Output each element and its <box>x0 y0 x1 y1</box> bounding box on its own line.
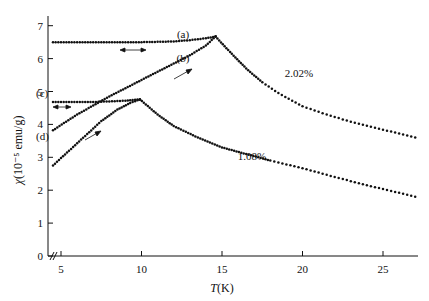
data-point <box>294 101 297 104</box>
data-point <box>205 44 208 47</box>
data-point <box>202 37 205 40</box>
data-point <box>194 38 197 41</box>
x-tick-label: 15 <box>217 263 229 275</box>
data-point <box>64 153 67 156</box>
data-point <box>180 128 183 131</box>
data-point <box>116 100 119 103</box>
data-point <box>398 132 401 135</box>
data-point <box>253 74 256 77</box>
data-point <box>232 54 235 57</box>
data-point <box>65 101 68 104</box>
data-point <box>289 164 292 167</box>
data-point <box>52 129 55 132</box>
data-point <box>89 101 92 104</box>
data-point <box>192 134 195 137</box>
data-point <box>85 108 88 111</box>
data-point <box>210 39 213 42</box>
data-point <box>317 171 320 174</box>
data-point <box>124 87 127 90</box>
data-point <box>333 176 336 179</box>
data-point <box>366 184 369 187</box>
data-point <box>202 46 205 49</box>
data-point <box>60 41 63 44</box>
data-point <box>87 101 90 104</box>
data-point <box>92 127 95 130</box>
y-tick-label: 0 <box>38 250 44 262</box>
series-0 <box>52 35 217 43</box>
data-point <box>151 41 154 44</box>
data-point <box>201 138 204 141</box>
data-point <box>62 101 64 104</box>
data-point <box>95 41 98 44</box>
y-tick-label: 2 <box>38 184 44 196</box>
data-point <box>163 67 166 70</box>
warming-arrow-icon <box>174 69 192 79</box>
data-point <box>166 66 169 69</box>
data-point <box>267 159 270 162</box>
data-point <box>74 115 77 118</box>
data-point <box>112 111 115 114</box>
data-point <box>72 146 75 149</box>
data-point <box>214 35 217 38</box>
data-point <box>87 41 90 44</box>
data-point <box>247 69 250 72</box>
data-point <box>119 41 122 44</box>
data-point <box>309 108 312 111</box>
data-point <box>60 123 63 126</box>
data-point <box>92 101 95 104</box>
data-point <box>52 101 55 104</box>
data-point <box>216 144 219 147</box>
data-point <box>133 82 136 85</box>
data-point <box>143 78 146 81</box>
data-point <box>225 47 228 50</box>
data-point <box>119 100 122 103</box>
data-point <box>111 100 114 103</box>
data-point <box>102 118 105 121</box>
data-point <box>382 128 385 131</box>
data-point <box>78 140 81 143</box>
data-point <box>97 101 100 104</box>
data-point <box>81 41 84 44</box>
data-point <box>92 41 95 44</box>
y-tick-label: 7 <box>38 20 44 32</box>
data-point <box>115 92 118 95</box>
data-point <box>309 169 312 172</box>
data-point <box>342 178 345 181</box>
data-point <box>62 41 64 44</box>
y-tick-label: 1 <box>38 217 44 229</box>
data-point <box>216 37 219 40</box>
x-tick-label: 25 <box>378 263 390 275</box>
data-point <box>159 69 162 72</box>
data-point <box>175 40 178 43</box>
x-axis-label: T(K) <box>210 281 233 295</box>
data-point <box>89 41 92 44</box>
data-point <box>120 106 123 109</box>
data-point <box>108 41 111 44</box>
y-axis-label: χ(10⁻⁵ emu/g) <box>11 116 25 186</box>
data-point <box>374 186 377 189</box>
data-point <box>141 100 144 103</box>
label-b: (b) <box>177 52 190 65</box>
data-point <box>386 129 389 132</box>
data-point <box>70 41 73 44</box>
data-point <box>127 41 130 44</box>
data-point <box>197 38 200 41</box>
data-point <box>140 79 143 82</box>
data-point <box>143 102 146 105</box>
data-point <box>159 41 162 44</box>
data-point <box>166 120 169 123</box>
data-point <box>218 39 221 42</box>
y-tick-label: 4 <box>38 118 44 130</box>
data-point <box>236 58 239 61</box>
data-point <box>370 125 373 128</box>
data-point <box>68 41 71 44</box>
data-point <box>94 125 97 128</box>
series-5 <box>139 98 417 198</box>
data-point <box>145 76 148 79</box>
data-point <box>249 71 252 74</box>
data-point <box>230 149 233 152</box>
data-point <box>88 131 91 134</box>
data-point <box>398 192 401 195</box>
concentration-1-08-label: 1.08% <box>238 150 266 162</box>
warming-arrow-icon <box>85 131 101 140</box>
